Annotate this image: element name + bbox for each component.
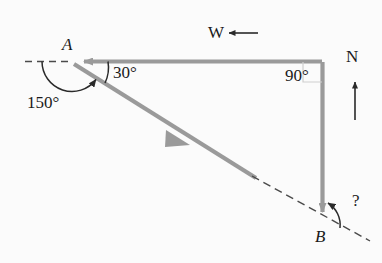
compass-label-west: W xyxy=(208,24,224,41)
angle-arc-150 xyxy=(42,62,96,92)
compass-label-north: N xyxy=(346,48,358,65)
point-label-B: B xyxy=(315,228,325,245)
angle-arc-30 xyxy=(105,62,109,84)
angle-label-30: 30° xyxy=(113,64,137,81)
diagram-canvas xyxy=(0,0,382,263)
point-label-A: A xyxy=(62,36,72,53)
angle-label-90: 90° xyxy=(285,67,309,84)
vector-A-to-B xyxy=(74,64,256,178)
angle-label-unknown: ? xyxy=(352,192,360,209)
bearing-diagram: A B 30° 150° 90° ? W N xyxy=(0,0,382,263)
angle-label-150: 150° xyxy=(27,94,59,111)
